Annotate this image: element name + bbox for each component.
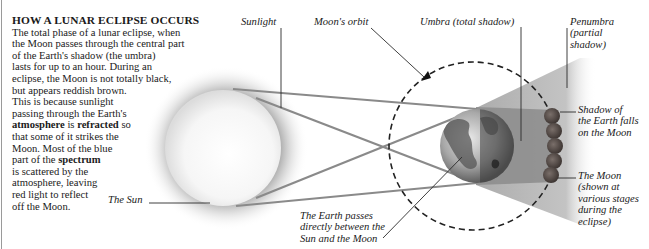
term-atmosphere: atmosphere: [12, 119, 65, 130]
intro-line: lasts for up to an hour. During an: [12, 61, 222, 73]
lunar-eclipse-diagram: HOW A LUNAR ECLIPSE OCCURS The total pha…: [0, 0, 649, 249]
intro-line: the Moon passes through the central part: [12, 38, 222, 50]
intro-line: is scattered by the: [12, 166, 222, 178]
label-line: directly between the: [300, 221, 385, 232]
moon-icon: [546, 123, 562, 139]
label-line: the Earth falls: [578, 115, 639, 126]
label-the-sun: The Sun: [108, 194, 142, 205]
moons-orbit-leader: [371, 28, 424, 77]
intro-line: Moon. Most of the blue: [12, 143, 222, 155]
label-line: The Earth passes: [300, 210, 385, 221]
intro-text: so: [119, 119, 131, 130]
label-line: eclipse): [578, 216, 639, 227]
label-moons-orbit: Moon's orbit: [314, 16, 368, 27]
label-line: (partial: [570, 27, 614, 38]
moon-icon: [543, 167, 559, 183]
term-spectrum: spectrum: [58, 154, 100, 165]
moon-icon: [544, 108, 560, 124]
label-shadow-falls: Shadow of the Earth falls on the Moon: [578, 104, 639, 138]
intro-line: eclipse, the Moon is not totally black,: [12, 73, 222, 85]
moon-icon: [546, 153, 562, 169]
label-line: Sun and the Moon: [300, 233, 385, 244]
intro-text-block: HOW A LUNAR ECLIPSE OCCURS The total pha…: [12, 15, 222, 212]
intro-line: The total phase of a lunar eclipse, when: [12, 27, 222, 39]
label-line: during the: [578, 204, 639, 215]
intro-line: that some of it strikes the: [12, 131, 222, 143]
intro-line: passing through the Earth's: [12, 108, 222, 120]
intro-line: atmosphere is refracted so: [12, 119, 222, 131]
label-line: shadow): [570, 39, 614, 50]
earth-passes-leader: [383, 157, 462, 238]
intro-line: of the Earth's shadow (the umbra): [12, 50, 222, 62]
moon-icon: [547, 138, 563, 154]
label-line: various stages: [578, 193, 639, 204]
intro-text: part of the: [12, 154, 58, 165]
intro-line: atmosphere, leaving: [12, 177, 222, 189]
label-the-moon: The Moon (shown at various stages during…: [578, 170, 639, 227]
diagram-title: HOW A LUNAR ECLIPSE OCCURS: [12, 15, 222, 27]
label-sunlight: Sunlight: [241, 16, 276, 27]
term-refracted: refracted: [77, 119, 119, 130]
label-earth-passes: The Earth passes directly between the Su…: [300, 210, 385, 244]
intro-text: is: [65, 119, 77, 130]
label-line: The Moon: [578, 170, 639, 181]
intro-line: part of the spectrum: [12, 154, 222, 166]
label-line: (shown at: [578, 181, 639, 192]
label-line: on the Moon: [578, 127, 639, 138]
label-penumbra: Penumbra (partial shadow): [570, 16, 614, 50]
label-line: Penumbra: [570, 16, 614, 27]
intro-line: This is because sunlight: [12, 96, 222, 108]
intro-line: but appears reddish brown.: [12, 85, 222, 97]
label-umbra: Umbra (total shadow): [420, 16, 514, 27]
label-line: Shadow of: [578, 104, 639, 115]
